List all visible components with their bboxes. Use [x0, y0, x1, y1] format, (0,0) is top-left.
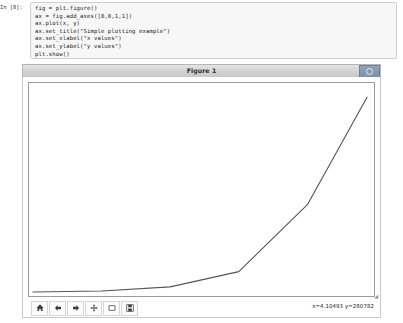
navigation-toolbar: ◢: [22, 299, 381, 318]
home-icon: [36, 304, 44, 312]
cell-prompt-label: In [8]:: [0, 0, 30, 11]
figure-canvas-area: [22, 77, 381, 299]
resize-grip-icon[interactable]: ◢: [374, 293, 378, 299]
pan-move-icon: [90, 304, 98, 312]
plot-canvas[interactable]: [28, 82, 375, 297]
coordinate-readout: x=4.10493 y=280782: [312, 303, 374, 309]
back-button[interactable]: [49, 301, 66, 316]
pan-button[interactable]: [85, 301, 102, 316]
code-line: ax.set_ylabel("y values"): [35, 43, 392, 51]
line-chart-svg: [29, 83, 374, 296]
code-line: ax.set_xlabel("x values"): [35, 35, 392, 43]
circle-close-icon: [366, 68, 373, 75]
code-line: ax.plot(x, y): [35, 20, 392, 28]
figure-title: Figure 1: [187, 68, 217, 74]
back-arrow-icon: [54, 304, 62, 312]
zoom-button[interactable]: [103, 301, 120, 316]
matplotlib-figure-window: Figure 1 ◢: [22, 64, 381, 318]
data-series-line: [33, 97, 367, 292]
forward-arrow-icon: [72, 304, 80, 312]
code-line: ax = fig.add_axes([0,0,1,1]): [35, 13, 392, 21]
notebook-input-cell: In [8]: fig = plt.figure() ax = fig.add_…: [0, 0, 403, 62]
figure-titlebar[interactable]: Figure 1: [22, 64, 381, 77]
forward-button[interactable]: [67, 301, 84, 316]
code-editor[interactable]: fig = plt.figure() ax = fig.add_axes([0,…: [30, 2, 397, 59]
save-button[interactable]: [121, 301, 138, 316]
zoom-rect-icon: [108, 304, 116, 312]
save-disk-icon: [126, 304, 134, 312]
code-line: ax.set_title("Simple plotting example"): [35, 28, 392, 36]
code-line: plt.show(): [35, 51, 392, 59]
home-button[interactable]: [31, 301, 48, 316]
code-line: fig = plt.figure(): [35, 5, 392, 13]
